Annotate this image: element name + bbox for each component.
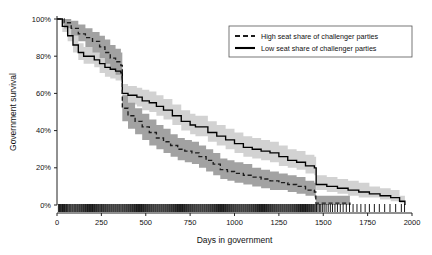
- x-tick-label: 1250: [271, 218, 288, 227]
- y-tick-label: 60%: [36, 89, 51, 98]
- legend-label: High seat share of challenger parties: [261, 32, 378, 41]
- survival-chart-figure: 0%20%40%60%80%100%0250500750100012501500…: [0, 0, 432, 255]
- y-tick-label: 0%: [40, 201, 51, 210]
- chart-legend[interactable]: High seat share of challenger partiesLow…: [229, 26, 412, 57]
- x-tick-label: 1000: [226, 218, 243, 227]
- y-tick-label: 80%: [36, 52, 51, 61]
- rug-plot-event-marks: [58, 204, 404, 212]
- kaplan-meier-chart: 0%20%40%60%80%100%0250500750100012501500…: [0, 0, 432, 255]
- x-tick-label: 250: [95, 218, 108, 227]
- x-tick-label: 1500: [315, 218, 332, 227]
- legend-label: Low seat share of challenger parties: [261, 44, 377, 53]
- x-tick-label: 2000: [404, 218, 421, 227]
- y-tick-label: 100%: [32, 15, 52, 24]
- y-tick-label: 20%: [36, 163, 51, 172]
- x-tick-label: 500: [139, 218, 152, 227]
- y-tick-label: 40%: [36, 126, 51, 135]
- y-axis-title: Government survival: [8, 73, 18, 151]
- x-axis-title: Days in government: [197, 235, 273, 245]
- x-tick-label: 750: [184, 218, 197, 227]
- x-tick-label: 1750: [359, 218, 376, 227]
- x-tick-label: 0: [55, 218, 59, 227]
